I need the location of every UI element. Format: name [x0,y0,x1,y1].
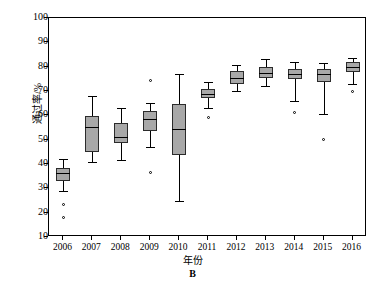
panel-letter: B [0,268,385,279]
x-tick-mark [236,236,237,240]
y-axis-ticks: 102030405060708090100 [0,0,48,292]
y-axis-label: 通过率/% [29,64,44,144]
plot-area [48,17,366,236]
y-tick-label: 40 [4,159,48,167]
y-tick-label: 10 [4,232,48,240]
x-tick-mark [265,236,266,240]
y-tick-mark [44,212,48,213]
whisker-cap-upper [348,58,357,59]
median-line [346,67,360,68]
x-tick-label: 2016 [335,242,369,252]
y-tick-label: 20 [4,208,48,216]
y-tick-label: 30 [4,183,48,191]
x-tick-mark [323,236,324,240]
y-tick-mark [44,187,48,188]
y-tick-mark [44,66,48,67]
x-tick-mark [294,236,295,240]
x-tick-mark [91,236,92,240]
x-tick-mark [352,236,353,240]
y-tick-label: 100 [4,13,48,21]
y-tick-mark [44,41,48,42]
x-tick-mark [149,236,150,240]
y-tick-mark [44,114,48,115]
y-tick-mark [44,17,48,18]
y-tick-label: 90 [4,37,48,45]
box-series-layer [49,18,365,235]
x-tick-mark [120,236,121,240]
whisker-cap-lower [348,84,357,85]
y-tick-mark [44,90,48,91]
box-plot-chart: 102030405060708090100 通过率/% 200620072008… [0,0,385,292]
whisker-lower [353,72,354,84]
outlier-point [351,90,354,93]
x-tick-mark [178,236,179,240]
x-tick-mark [62,236,63,240]
y-tick-mark [44,163,48,164]
x-tick-mark [207,236,208,240]
x-axis-label: 年份 [0,252,385,267]
box-plot-group [49,18,365,235]
y-tick-mark [44,139,48,140]
